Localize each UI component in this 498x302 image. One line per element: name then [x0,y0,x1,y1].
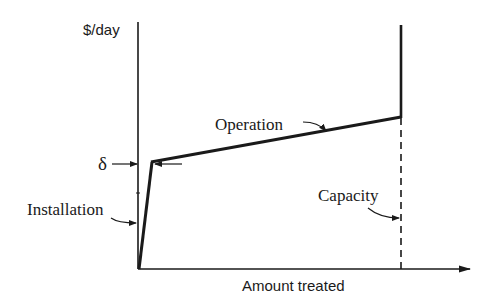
y-axis-label: $/day [83,21,120,38]
delta-label: δ [98,153,107,174]
cost-diagram: $/day Amount treated δ Operation Install… [0,0,498,302]
capacity-label: Capacity [318,186,379,205]
operation-label: Operation [215,115,283,134]
installation-line [139,162,152,269]
x-axis-label: Amount treated [242,277,345,294]
installation-label: Installation [27,200,104,219]
capacity-arrow [368,208,399,218]
installation-arrow [111,218,136,223]
